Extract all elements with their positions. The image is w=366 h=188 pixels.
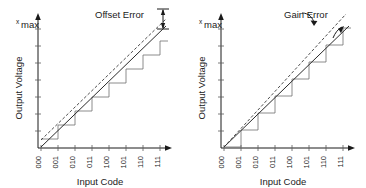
actual-line-offset bbox=[41, 19, 166, 140]
x-tick-labels-gain: 000 001 010 011 100 101 110 111 bbox=[217, 156, 345, 169]
x-axis-title: Input Code bbox=[260, 176, 306, 187]
panel-offset-error: Offset Error x max Output Voltage 000 00… bbox=[0, 0, 183, 188]
y-axis-title: Output Voltage bbox=[13, 57, 24, 120]
offset-error-chart: Offset Error x max Output Voltage 000 00… bbox=[0, 0, 183, 188]
gain-error-label: Gain Error bbox=[284, 9, 328, 20]
y-axis-max-suffix: max bbox=[21, 19, 39, 30]
adc-error-figure: Offset Error x max Output Voltage 000 00… bbox=[0, 0, 366, 188]
x-tick-label: 110 bbox=[319, 156, 328, 168]
y-axis-max-prefix: x bbox=[199, 18, 203, 25]
x-axis-arrowhead bbox=[165, 145, 172, 151]
x-tick-label: 011 bbox=[85, 156, 94, 168]
x-tick-label: 100 bbox=[285, 156, 294, 169]
y-axis-title: Output Voltage bbox=[196, 57, 207, 120]
staircase-offset bbox=[41, 41, 168, 139]
y-axis-max-prefix: x bbox=[16, 18, 20, 25]
panel-gain-error: Gain Error x max Output Voltage 000 001 … bbox=[183, 0, 366, 188]
x-tick-label: 010 bbox=[68, 156, 77, 169]
x-tick-label: 101 bbox=[119, 156, 128, 169]
x-tick-label: 101 bbox=[302, 156, 311, 169]
x-tick-label: 000 bbox=[34, 156, 43, 169]
x-axis-arrowhead bbox=[348, 145, 355, 151]
x-tick-label: 100 bbox=[102, 156, 111, 169]
x-tick-label: 110 bbox=[136, 156, 145, 168]
x-tick-label: 011 bbox=[268, 156, 277, 168]
x-axis-offset bbox=[38, 145, 172, 151]
ideal-line-offset bbox=[41, 26, 166, 147]
y-axis-gain bbox=[218, 13, 224, 148]
ideal-line-gain bbox=[224, 26, 349, 147]
y-axis-max-suffix: max bbox=[204, 19, 222, 30]
x-tick-labels-offset: 000 001 010 011 100 101 110 111 bbox=[34, 156, 162, 169]
x-tick-label: 001 bbox=[234, 156, 243, 169]
x-tick-label: 111 bbox=[336, 156, 345, 167]
actual-line-gain bbox=[224, 14, 346, 147]
offset-error-arrow-annotation bbox=[157, 9, 169, 29]
x-axis-title: Input Code bbox=[77, 176, 123, 187]
x-tick-label: 111 bbox=[153, 156, 162, 167]
x-tick-label: 010 bbox=[251, 156, 260, 169]
offset-error-label: Offset Error bbox=[95, 9, 144, 20]
gain-error-chart: Gain Error x max Output Voltage 000 001 … bbox=[183, 0, 366, 188]
y-axis-offset bbox=[35, 13, 41, 148]
x-tick-label: 001 bbox=[51, 156, 60, 169]
x-tick-label: 000 bbox=[217, 156, 226, 169]
